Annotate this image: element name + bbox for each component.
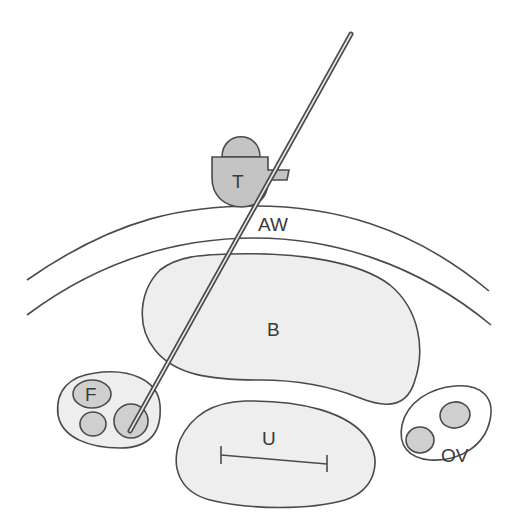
uterus-shape	[176, 401, 375, 508]
abdominal-wall-label: AW	[258, 214, 288, 235]
transducer-icon: T	[212, 137, 289, 207]
diagram-svg: AW B U F OV T	[0, 0, 515, 531]
left-ovary-follicles: F	[58, 372, 161, 448]
diagram-canvas: AW B U F OV T	[0, 0, 515, 531]
bladder-label: B	[267, 319, 280, 340]
transducer-handle	[222, 137, 260, 157]
bladder: B	[142, 254, 419, 404]
transducer-label: T	[232, 171, 244, 192]
ovary-label: OV	[441, 445, 469, 466]
follicle-label: F	[85, 384, 97, 405]
uterus-label: U	[262, 428, 276, 449]
right-ovary-follicle-2	[406, 427, 434, 453]
bladder-shape	[142, 254, 419, 404]
uterus: U	[176, 401, 375, 508]
follicle-small	[80, 412, 106, 436]
right-ovary: OV	[401, 386, 491, 466]
